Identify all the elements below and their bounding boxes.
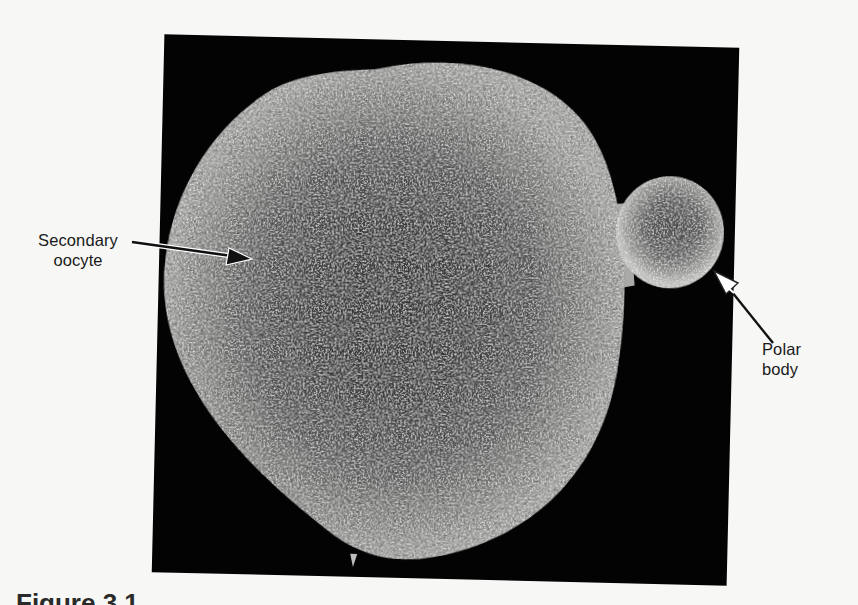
polar-body-label-line1: Polar [762, 339, 822, 359]
secondary-oocyte-label-line1: Secondary [22, 230, 134, 250]
figure-caption: Figure 3.1 [16, 588, 139, 605]
micrograph-image [152, 34, 740, 585]
secondary-oocyte-label-line2: oocyte [22, 250, 134, 270]
oocyte-shape [158, 56, 630, 564]
polar-body-label-line2: body [762, 359, 822, 379]
secondary-oocyte-label: Secondary oocyte [22, 230, 134, 270]
micrograph-panel [152, 34, 740, 585]
figure-page: Secondary oocyte Polar body Figure 3.1 [0, 0, 858, 605]
polar-body-label: Polar body [762, 339, 822, 379]
